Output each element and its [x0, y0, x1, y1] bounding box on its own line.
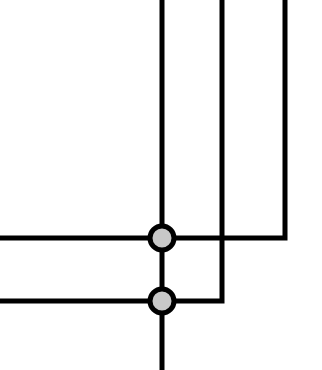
wiring-diagram — [0, 0, 322, 370]
junction-upper — [150, 226, 174, 250]
wires-group — [0, 0, 285, 370]
junction-lower — [150, 289, 174, 313]
middle-wire — [162, 0, 222, 301]
